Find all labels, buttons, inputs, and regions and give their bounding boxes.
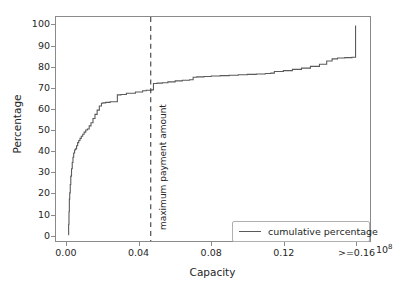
legend-label: cumulative percentage [268,226,378,237]
x-axis-tick-mark [66,242,67,246]
x-axis-tick-label: 0.12 [273,247,294,258]
y-axis-tick-label: 50 [24,125,50,135]
y-axis-tick-label: 80 [24,62,50,72]
y-axis-tick-label: 40 [24,146,50,156]
chart-canvas [56,17,370,241]
y-axis-tick-mark [51,109,55,110]
x-axis-tick-mark [356,242,357,246]
vline-annotation-label: maximum payment amount [158,104,168,230]
y-axis-tick-label: 60 [24,104,50,114]
y-axis-title: Percentage [11,74,23,174]
y-axis-tick-mark [51,67,55,68]
y-axis-tick-mark [51,130,55,131]
y-axis-tick-label: 30 [24,167,50,177]
x-axis-offset-power: 8 [388,243,392,251]
y-axis-tick-label: 70 [24,83,50,93]
y-axis-tick-label: 20 [24,188,50,198]
x-axis-title: Capacity [0,266,403,278]
plot-area [55,16,371,242]
x-axis-tick-mark [284,242,285,246]
chart-legend: cumulative percentage [232,221,370,242]
y-axis-tick-label: 90 [24,41,50,51]
y-axis-tick-mark [51,151,55,152]
y-axis-tick-mark [51,215,55,216]
x-axis-title-text: Capacity [190,266,236,278]
x-axis-tick-label: >=0.16 [338,247,375,258]
y-axis-tick-label: 100 [24,19,50,29]
x-axis-tick-mark [139,242,140,246]
legend-swatch-line [239,231,261,232]
y-axis-tick-label: 10 [24,210,50,220]
cumulative-percentage-line [68,25,355,234]
y-axis-tick-mark [51,236,55,237]
y-axis-tick-mark [51,172,55,173]
y-axis-tick-mark [51,46,55,47]
x-axis-tick-mark [211,242,212,246]
y-axis-tick-label: 0 [24,231,50,241]
x-axis-tick-label: 0.08 [201,247,222,258]
x-axis-offset-base: 10 [376,244,388,255]
chart-figure: 0102030405060708090100 Percentage maximu… [0,0,403,295]
x-axis-offset-exponent: 108 [376,243,393,255]
y-axis-tick-mark [51,88,55,89]
x-axis-tick-label: 0.04 [128,247,149,258]
y-axis-tick-mark [51,193,55,194]
y-axis-tick-mark [51,24,55,25]
x-axis-tick-label: 0.00 [55,247,76,258]
